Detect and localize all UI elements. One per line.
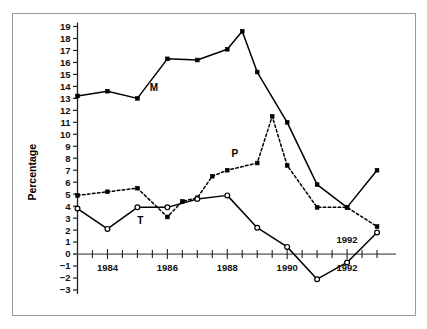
- data-point-T: [195, 197, 200, 202]
- data-point-P: [106, 190, 110, 194]
- y-tick-label: 7: [65, 165, 70, 176]
- y-axis-title: Percentage: [26, 144, 38, 201]
- y-tick-label: 2: [65, 225, 70, 236]
- y-tick-label: 12: [60, 105, 71, 116]
- data-point-P: [225, 168, 229, 172]
- data-point-P: [345, 205, 349, 209]
- y-tick-label: −3: [60, 284, 71, 295]
- data-point-M: [315, 183, 319, 187]
- series-label-M: M: [150, 82, 158, 93]
- data-point-P: [315, 205, 319, 209]
- data-point-M: [165, 57, 169, 61]
- data-point-P: [285, 164, 289, 168]
- data-point-P: [270, 114, 274, 118]
- y-tick-label: 5: [65, 189, 71, 200]
- data-point-M: [255, 70, 259, 74]
- data-point-T: [345, 260, 350, 265]
- y-tick-label: 3: [65, 213, 70, 224]
- data-point-T: [285, 244, 290, 249]
- chart-figure: −3−2−10123456789101112131415161718191984…: [0, 0, 427, 329]
- data-point-M: [106, 89, 110, 93]
- y-tick-label: 6: [65, 177, 70, 188]
- chart-plot-area: −3−2−10123456789101112131415161718191984…: [0, 0, 427, 329]
- y-tick-label: 16: [60, 57, 71, 68]
- y-tick-label: 10: [60, 129, 71, 140]
- y-tick-label: 13: [60, 93, 71, 104]
- data-point-T: [105, 227, 110, 232]
- series-label-T: T: [137, 215, 143, 226]
- data-point-M: [375, 168, 379, 172]
- data-point-P: [210, 174, 214, 178]
- data-point-P: [136, 186, 140, 190]
- data-point-M: [76, 94, 80, 98]
- data-point-M: [195, 58, 199, 62]
- x-tick-label: 1990: [277, 262, 298, 273]
- data-point-T: [375, 230, 380, 235]
- y-tick-label: 15: [60, 69, 71, 80]
- data-point-M: [136, 96, 140, 100]
- series-label-P: P: [231, 148, 238, 159]
- y-tick-label: 8: [65, 153, 70, 164]
- series-P: P: [76, 114, 379, 228]
- y-tick-label: 14: [60, 81, 71, 92]
- x-tick-label: 1988: [217, 262, 238, 273]
- x-tick-label: 1984: [97, 262, 119, 273]
- y-tick-label: 11: [60, 117, 71, 128]
- x-tick-label: 1986: [157, 262, 178, 273]
- x-axis-annotation-1992: 1992: [337, 234, 358, 245]
- data-point-P: [165, 215, 169, 219]
- y-tick-label: 1: [65, 236, 71, 247]
- data-point-P: [255, 161, 259, 165]
- y-tick-label: 9: [65, 141, 70, 152]
- y-tick-label: −2: [60, 272, 71, 283]
- data-point-P: [375, 225, 379, 229]
- data-point-T: [225, 193, 230, 198]
- y-tick-label: 4: [65, 201, 71, 212]
- data-point-T: [165, 205, 170, 210]
- data-point-T: [315, 277, 320, 282]
- data-point-M: [240, 29, 244, 33]
- data-point-T: [255, 225, 260, 230]
- y-tick-label: 17: [60, 45, 71, 56]
- y-tick-label: 18: [60, 33, 71, 44]
- data-point-P: [76, 193, 80, 197]
- data-point-T: [75, 206, 80, 211]
- series-M: M: [76, 29, 379, 209]
- y-tick-label: −1: [60, 260, 72, 271]
- y-tick-label: 19: [60, 21, 71, 32]
- y-tick-label: 0: [65, 248, 70, 259]
- data-point-M: [285, 120, 289, 124]
- series-line-M: [78, 31, 378, 207]
- data-point-M: [225, 47, 229, 51]
- data-point-T: [135, 205, 140, 210]
